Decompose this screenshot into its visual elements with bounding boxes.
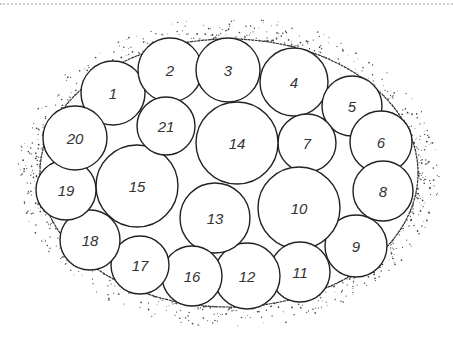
numbered-circle-2: 2 xyxy=(138,38,202,102)
circle-label: 20 xyxy=(66,130,84,147)
numbered-circle-13: 13 xyxy=(180,183,250,253)
circle-label: 14 xyxy=(229,135,246,152)
numbered-circle-14: 14 xyxy=(196,102,278,184)
circle-packing-diagram: 123456789101112131415161718192021 xyxy=(0,0,453,343)
numbered-circle-15: 15 xyxy=(96,145,178,227)
circle-label: 5 xyxy=(348,98,357,115)
circle-label: 10 xyxy=(291,200,308,217)
circle-label: 17 xyxy=(132,257,149,274)
numbered-circle-12: 12 xyxy=(214,243,280,309)
numbered-circle-16: 16 xyxy=(162,246,222,306)
numbered-circle-8: 8 xyxy=(353,161,413,221)
circle-label: 8 xyxy=(379,183,388,200)
circle-label: 13 xyxy=(207,210,224,227)
numbered-circle-4: 4 xyxy=(260,48,328,116)
numbered-circle-7: 7 xyxy=(278,114,336,172)
circle-label: 9 xyxy=(352,238,361,255)
circle-label: 7 xyxy=(303,135,312,152)
numbered-circle-3: 3 xyxy=(196,38,260,102)
circle-label: 3 xyxy=(224,62,233,79)
circle-label: 19 xyxy=(58,182,75,199)
numbered-circle-10: 10 xyxy=(258,167,340,249)
circle-label: 16 xyxy=(184,268,201,285)
circle-label: 18 xyxy=(82,232,99,249)
circle-label: 4 xyxy=(290,74,298,91)
circle-label: 2 xyxy=(165,62,175,79)
circle-label: 21 xyxy=(157,118,175,135)
numbered-circle-20: 20 xyxy=(43,106,107,170)
numbered-circle-21: 21 xyxy=(137,97,195,155)
circle-label: 1 xyxy=(109,85,117,102)
circle-label: 11 xyxy=(292,264,308,281)
circle-label: 12 xyxy=(239,268,256,285)
circle-label: 15 xyxy=(129,178,146,195)
circle-label: 6 xyxy=(377,134,386,151)
